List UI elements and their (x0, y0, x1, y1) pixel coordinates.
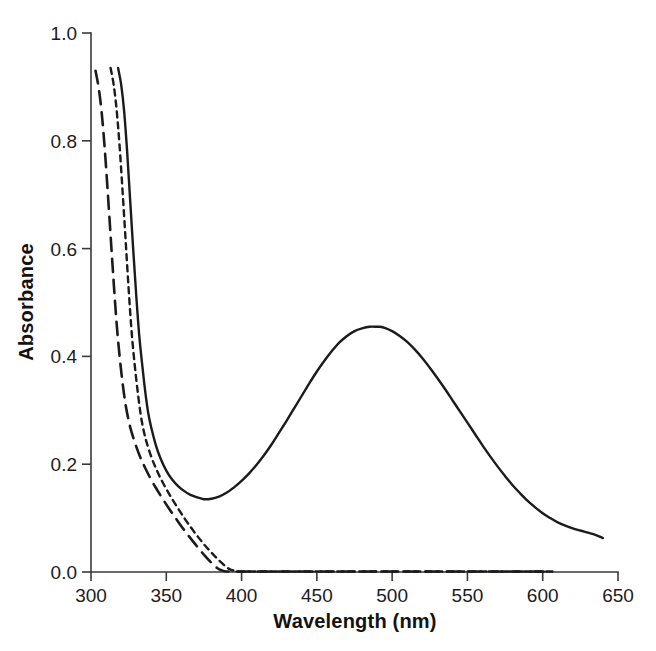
chart-axes (91, 33, 618, 572)
y-tick-label: 0.0 (51, 562, 77, 583)
x-tick-label: 300 (75, 585, 107, 606)
y-tick-label: 0.2 (51, 454, 77, 475)
y-tick-label: 0.6 (51, 239, 77, 260)
chart-series-group (96, 68, 603, 572)
x-tick-label: 650 (602, 585, 634, 606)
series-line-solid (118, 68, 603, 538)
absorbance-spectrum-chart: 300350400450500550600650 0.00.20.40.60.8… (0, 0, 656, 651)
x-tick-label: 600 (527, 585, 559, 606)
x-tick-label: 350 (150, 585, 182, 606)
y-tick-label: 0.4 (51, 346, 78, 367)
x-axis-ticks: 300350400450500550600650 (75, 572, 634, 606)
x-tick-label: 550 (452, 585, 484, 606)
series-line-long-dash (96, 71, 551, 572)
x-tick-label: 450 (301, 585, 333, 606)
x-tick-label: 500 (376, 585, 408, 606)
y-axis-title: Absorbance (15, 243, 37, 361)
y-axis-ticks: 0.00.20.40.60.81.0 (51, 23, 91, 583)
x-tick-label: 400 (226, 585, 258, 606)
y-tick-label: 1.0 (51, 23, 77, 44)
absorbance-spectrum-figure: 300350400450500550600650 0.00.20.40.60.8… (0, 0, 656, 651)
x-axis-title: Wavelength (nm) (273, 610, 436, 632)
y-tick-label: 0.8 (51, 131, 77, 152)
series-line-short-dash (111, 68, 554, 571)
